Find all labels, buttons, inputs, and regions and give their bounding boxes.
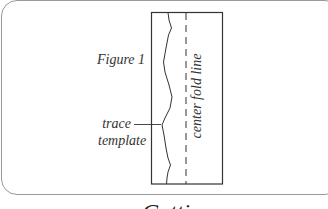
trace-template-line (162, 13, 172, 185)
template-annotation: template (98, 133, 146, 149)
trace-annotation: trace (102, 116, 131, 132)
paper-outline (152, 13, 223, 185)
section-heading: Cutting (142, 199, 214, 209)
figure-label: Figure 1 (97, 52, 145, 68)
center-fold-line-label: center fold line (189, 54, 205, 139)
template-diagram (0, 0, 328, 209)
